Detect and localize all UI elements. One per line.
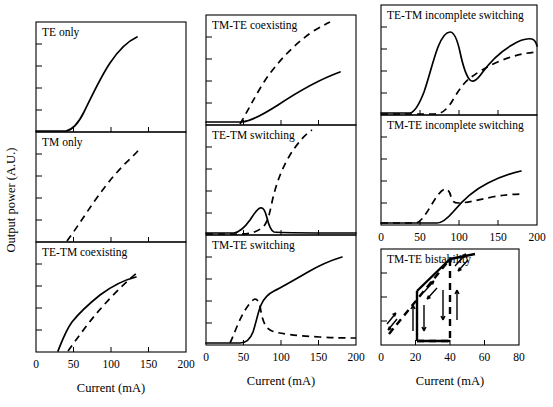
panel-column-left: TE only TM only xyxy=(33,22,195,395)
arrow-down-icon xyxy=(441,290,445,320)
x-tick-label: 0 xyxy=(378,231,384,243)
x-tick-labels-right-top: 0 50 100 150 200 xyxy=(378,231,546,243)
curve-tm-dashed xyxy=(206,130,312,234)
x-tick-labels-right-bottom: 0 20 40 60 80 xyxy=(378,351,525,363)
curve-tm-drop-branch xyxy=(417,259,450,341)
x-tick-label: 60 xyxy=(479,351,491,363)
x-tick-label: 200 xyxy=(528,231,546,243)
x-ticks xyxy=(244,120,319,125)
curve-te-solid xyxy=(36,37,137,131)
curve-tm-dashed xyxy=(381,52,537,114)
x-tick-label: 200 xyxy=(177,358,195,370)
panel-title-te-tm-switching: TE-TM switching xyxy=(212,129,295,142)
panel-tm-te-incomplete-switching: TM-TE incomplete switching xyxy=(381,115,537,225)
curve-tm-dashed xyxy=(67,149,139,241)
y-ticks xyxy=(206,37,212,103)
x-tick-label: 80 xyxy=(513,351,525,363)
y-ticks xyxy=(381,27,387,93)
panel-frame xyxy=(206,235,356,345)
panel-column-middle: TM-TE coexisting TE-TM switchi xyxy=(203,15,365,388)
curve-te-solid xyxy=(58,277,136,351)
y-ticks xyxy=(381,137,387,203)
x-tick-label: 100 xyxy=(272,351,290,363)
panel-frame xyxy=(206,125,356,235)
curve-tm-dashed xyxy=(230,299,356,343)
panel-title-te-tm-coexisting: TE-TM coexisting xyxy=(42,246,128,259)
panel-frame xyxy=(36,22,186,132)
curve-tm-dashed xyxy=(68,272,138,351)
panel-te-only: TE only xyxy=(36,22,186,132)
x-tick-labels-left: 0 50 100 150 200 xyxy=(33,358,195,370)
y-ticks xyxy=(36,44,42,110)
panel-title-te-tm-incomplete-switching: TE-TM incomplete switching xyxy=(387,9,524,22)
y-ticks xyxy=(381,273,387,321)
panel-frame xyxy=(206,15,356,125)
curve-te-solid xyxy=(206,72,340,122)
curve-tm-rising-branch xyxy=(389,259,450,334)
panel-frame xyxy=(36,132,186,242)
panel-frame xyxy=(381,5,537,115)
panel-tm-te-bistability: TM-TE bistability xyxy=(381,249,519,345)
x-tick-label: 100 xyxy=(450,231,468,243)
x-tick-label: 20 xyxy=(410,351,422,363)
hysteresis-arrows xyxy=(387,254,468,331)
x-tick-label: 0 xyxy=(378,351,384,363)
x-axis-label-middle: Current (mA) xyxy=(247,374,315,388)
y-axis-label: Output power (A.U.) xyxy=(4,148,18,253)
x-tick-label: 50 xyxy=(68,358,80,370)
y-ticks xyxy=(36,154,42,220)
panel-title-tm-te-coexisting: TM-TE coexisting xyxy=(212,19,298,32)
panel-column-right: TE-TM incomplete switching TM- xyxy=(378,5,546,388)
x-tick-label: 100 xyxy=(102,358,120,370)
x-tick-label: 50 xyxy=(238,351,250,363)
curve-tm-dashed xyxy=(240,22,330,124)
y-ticks xyxy=(206,257,212,323)
x-tick-label: 150 xyxy=(140,358,158,370)
x-tick-label: 50 xyxy=(414,231,426,243)
curve-te-solid xyxy=(381,32,537,113)
arrow-down-icon xyxy=(422,305,426,331)
panel-title-tm-te-incomplete-switching: TM-TE incomplete switching xyxy=(387,119,524,132)
multi-panel-li-curve-figure: Output power (A.U.) TE only xyxy=(0,0,553,407)
x-tick-label: 150 xyxy=(489,231,507,243)
curve-te-solid xyxy=(206,208,356,233)
x-tick-label: 0 xyxy=(203,351,209,363)
y-ticks xyxy=(206,147,212,213)
x-ticks xyxy=(74,237,149,242)
panel-title-tm-te-switching: TM-TE switching xyxy=(212,239,295,252)
x-axis-label-right: Current (mA) xyxy=(416,374,484,388)
arrow-down-left-icon xyxy=(427,288,437,299)
panel-title-tm-te-bistability: TM-TE bistability xyxy=(387,253,471,266)
y-ticks xyxy=(36,264,42,330)
x-tick-label: 200 xyxy=(347,351,365,363)
x-tick-labels-middle: 0 50 100 150 200 xyxy=(203,351,365,363)
panel-frame xyxy=(381,115,537,225)
curve-te-solid xyxy=(381,171,521,223)
panel-frame xyxy=(36,242,186,352)
panel-tm-only: TM only xyxy=(36,132,186,242)
arrow-up-icon xyxy=(455,290,459,320)
x-tick-label: 0 xyxy=(33,358,39,370)
x-tick-label: 150 xyxy=(310,351,328,363)
x-ticks xyxy=(74,127,149,132)
figure-container: Output power (A.U.) TE only xyxy=(0,0,553,407)
curve-te-solid xyxy=(206,257,342,343)
panel-title-te-only: TE only xyxy=(42,26,80,39)
panel-te-tm-coexisting: TE-TM coexisting xyxy=(36,242,186,352)
panel-tm-te-coexisting: TM-TE coexisting xyxy=(206,15,356,125)
panel-tm-te-switching: TM-TE switching xyxy=(206,235,356,345)
panel-te-tm-switching: TE-TM switching xyxy=(206,125,356,235)
panel-title-tm-only: TM only xyxy=(42,136,83,149)
x-ticks xyxy=(74,347,149,352)
curve-tm-dashed xyxy=(381,189,522,223)
x-axis-label-left: Current (mA) xyxy=(77,381,145,395)
arrow-up-icon xyxy=(411,305,415,331)
x-tick-label: 40 xyxy=(444,351,456,363)
x-ticks xyxy=(244,340,319,345)
panel-te-tm-incomplete-switching: TE-TM incomplete switching xyxy=(381,5,537,115)
